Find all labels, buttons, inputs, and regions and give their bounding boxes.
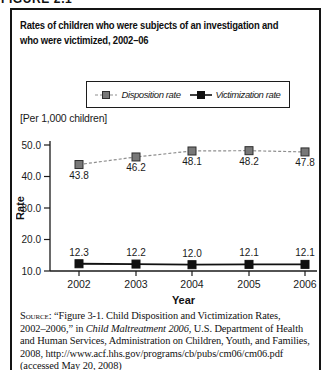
source-line source-url: 2008, http://www.acf.hhs.gov/programs/cb… <box>20 348 315 361</box>
figure-title-line2: who were victimized, 2002–06 <box>20 33 286 48</box>
x-tick-label: 2003 <box>124 278 148 290</box>
source-line: and Human Services, Administration on Ch… <box>20 335 315 348</box>
marker-victimization-2005 <box>245 260 253 268</box>
victimization-line-swatch-icon <box>190 90 212 100</box>
source-note: Source: “Figure 3-1. Child Disposition a… <box>20 310 318 370</box>
source-label: Source: <box>20 310 51 321</box>
data-label: 43.8 <box>69 170 89 181</box>
data-label: 12.1 <box>239 247 259 258</box>
source-line: 2002–2006,” in Child Maltreatment 2006, … <box>20 323 315 336</box>
figure-title: Rates of children who were subjects of a… <box>20 18 316 48</box>
data-label: 48.1 <box>182 156 202 167</box>
x-tick-label: 2006 <box>293 278 317 290</box>
legend-label-disposition: Disposition rate <box>121 89 180 100</box>
source-line: Source: “Figure 3-1. Child Disposition a… <box>20 310 315 323</box>
x-tick-label: 2002 <box>67 278 91 290</box>
marker-victimization-2002 <box>75 260 83 268</box>
marker-disposition-2004 <box>188 147 196 155</box>
data-label: 46.2 <box>126 162 146 173</box>
marker-victimization-2004 <box>188 261 196 269</box>
data-label: 12.3 <box>69 247 89 258</box>
legend-item-victimization: Victimization rate <box>190 89 281 100</box>
y-tick-label: 20.0 <box>22 234 42 245</box>
y-tick-label: 10.0 <box>22 266 42 277</box>
marker-disposition-2005 <box>245 147 253 155</box>
x-tick-label: 2005 <box>237 278 261 290</box>
y-axis-title: Rate <box>16 196 26 220</box>
figure-number-label: FIGURE 2.1 <box>1 0 121 6</box>
marker-disposition-2006 <box>301 148 309 156</box>
data-label: 47.8 <box>295 157 315 168</box>
scanned-figure-page: { "figure_label": "FIGURE 2.1", "header"… <box>0 0 327 370</box>
y-tick-label: 40.0 <box>22 171 42 182</box>
unit-note: [Per 1,000 children] <box>20 112 107 124</box>
figure-title-line1: Rates of children who were subjects of a… <box>20 18 286 33</box>
chart-svg: 10.020.030.040.050.020022003200420052006… <box>16 130 321 312</box>
data-label: 12.0 <box>182 248 202 259</box>
marker-disposition-2002 <box>75 161 83 169</box>
disposition-line-swatch-icon <box>95 90 117 100</box>
y-tick-label: 50.0 <box>22 140 42 151</box>
cited-work-title: Child Maltreatment 2006 <box>86 323 189 334</box>
marker-victimization-2003 <box>132 260 140 268</box>
marker-disposition-2003 <box>132 153 140 161</box>
marker-victimization-2006 <box>301 260 309 268</box>
x-tick-label: 2004 <box>180 278 204 290</box>
source-line: (accessed May 20, 2008) <box>20 360 315 370</box>
legend-item-disposition: Disposition rate <box>95 89 180 100</box>
data-label: 12.1 <box>295 247 315 258</box>
chart-area: 10.020.030.040.050.020022003200420052006… <box>16 130 321 312</box>
x-axis-title: Year <box>172 294 196 306</box>
legend-label-victimization: Victimization rate <box>216 89 281 100</box>
data-label: 48.2 <box>239 156 259 167</box>
data-label: 12.2 <box>126 247 146 258</box>
figure-number-text: FIGURE 2.1 <box>1 0 121 6</box>
chart-legend: Disposition rate Victimization rate <box>86 81 290 108</box>
figure-box: Rates of children who were subjects of a… <box>10 8 321 370</box>
